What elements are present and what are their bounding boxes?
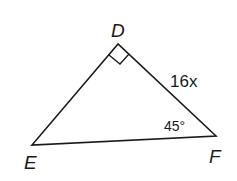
vertex-label-f: F [209,146,222,167]
angle-label-f: 45° [164,118,185,134]
right-angle-marker [109,54,129,64]
side-label-df: 16x [170,72,198,91]
vertex-label-e: E [24,152,37,173]
triangle-diagram: D E F 16x 45° [0,0,237,181]
vertex-label-d: D [111,20,125,41]
